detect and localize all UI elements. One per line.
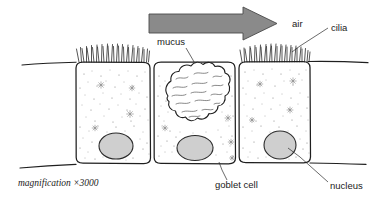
nucleus-middle: [177, 136, 213, 161]
basement-membrane-right: [310, 163, 366, 164]
magnification-caption: magnification ×3000: [18, 178, 99, 188]
cilia-left: [77, 44, 150, 62]
cilia-leader-line: [292, 28, 328, 52]
basement-membrane-left: [20, 164, 76, 168]
ciliated-cell-left: [76, 44, 151, 164]
apical-surface-left: [22, 62, 76, 65]
label-nucleus: nucleus: [330, 180, 363, 191]
nucleus-right: [264, 131, 296, 159]
diagram-page: air cilia mucus: [0, 0, 384, 199]
nucleus-left: [99, 133, 133, 159]
ciliated-epithelium-diagram: air cilia mucus: [0, 0, 384, 199]
label-mucus: mucus: [157, 36, 185, 47]
label-air: air: [292, 18, 303, 29]
label-goblet-cell: goblet cell: [215, 179, 258, 190]
label-cilia: cilia: [331, 22, 348, 33]
apical-surface-right: [308, 61, 368, 62]
goblet-cell-leader-line: [219, 162, 227, 180]
goblet-cell: [154, 62, 236, 164]
ciliated-cell-right: [239, 44, 311, 163]
